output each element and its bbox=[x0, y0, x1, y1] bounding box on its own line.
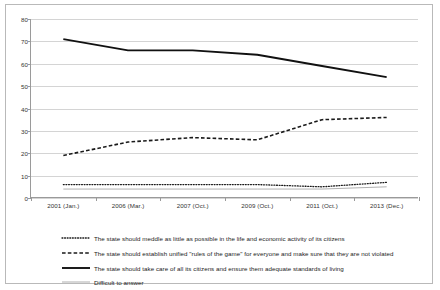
y-axis-tick-label: 20 bbox=[21, 150, 28, 157]
figure-frame: 01020304050607080 2001 (Jan.)2006 (Mar.)… bbox=[5, 4, 433, 284]
dashed-line-swatch bbox=[61, 249, 91, 257]
y-axis-tick-label: 40 bbox=[21, 105, 28, 112]
x-axis-tick-label: 2001 (Jan.) bbox=[47, 202, 79, 209]
plot-area: 01020304050607080 2001 (Jan.)2006 (Mar.)… bbox=[30, 19, 418, 198]
y-axis-tick-label: 60 bbox=[21, 60, 28, 67]
legend-item-label: The state should take care of all its ci… bbox=[94, 265, 344, 272]
chart-legend: The state should meddle as little as pos… bbox=[6, 229, 434, 283]
thin-line-swatch bbox=[61, 278, 91, 286]
series-line bbox=[63, 117, 386, 155]
legend-item: Difficult to answer bbox=[61, 277, 144, 287]
series-line bbox=[63, 39, 386, 77]
line-chart: 01020304050607080 2001 (Jan.)2006 (Mar.)… bbox=[6, 5, 434, 233]
y-axis-tick-label: 30 bbox=[21, 127, 28, 134]
x-axis-tick-label: 2011 (Oct.) bbox=[306, 202, 338, 209]
legend-item-label: Difficult to answer bbox=[94, 279, 144, 286]
y-axis-tick-label: 50 bbox=[21, 83, 28, 90]
y-axis-tick-label: 80 bbox=[21, 16, 28, 23]
legend-item: The state should take care of all its ci… bbox=[61, 263, 344, 273]
x-axis-tick-label: 2007 (Oct.) bbox=[177, 202, 209, 209]
series-line bbox=[63, 182, 386, 186]
legend-item-label: The state should establish unified "rule… bbox=[94, 250, 393, 257]
series-line bbox=[63, 187, 386, 189]
legend-item-label: The state should meddle as little as pos… bbox=[94, 235, 345, 242]
dotted-line-swatch bbox=[61, 234, 91, 242]
x-axis-tick bbox=[419, 197, 420, 201]
x-axis-tick-label: 2013 (Dec.) bbox=[370, 202, 403, 209]
legend-item: The state should establish unified "rule… bbox=[61, 248, 393, 258]
legend-item: The state should meddle as little as pos… bbox=[61, 233, 345, 243]
x-axis-tick-label: 2006 (Mar.) bbox=[112, 202, 145, 209]
y-axis-tick-label: 70 bbox=[21, 38, 28, 45]
y-axis-tick-label: 0 bbox=[24, 195, 28, 202]
x-axis-tick-label: 2009 (Oct.) bbox=[241, 202, 273, 209]
solid-line-swatch bbox=[61, 264, 91, 272]
y-axis-tick-label: 10 bbox=[21, 172, 28, 179]
series-layer bbox=[31, 19, 419, 198]
